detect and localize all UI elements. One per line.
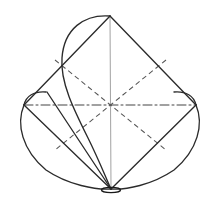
figure-container: [0, 0, 220, 203]
geometric-line-drawing: [0, 0, 220, 203]
